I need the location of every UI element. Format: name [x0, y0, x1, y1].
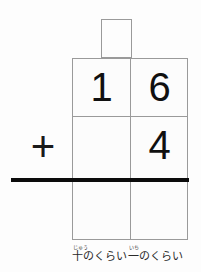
- caption-ones-place: いち 一のくらい: [128, 244, 190, 263]
- carry-box[interactable]: [101, 19, 132, 58]
- cell-addend2-tens[interactable]: [73, 117, 130, 174]
- plus-operator: +: [22, 124, 64, 170]
- cell-answer-ones[interactable]: [131, 181, 188, 238]
- caption-ones-label: 一のくらい: [128, 250, 190, 263]
- cell-answer-tens[interactable]: [73, 181, 130, 238]
- answer-rule-line: [11, 178, 189, 182]
- caption-tens-label: 十のくらい: [72, 250, 134, 263]
- place-value-captions: じゅう 十のくらい いち 一のくらい: [62, 244, 194, 270]
- cell-addend1-tens[interactable]: 1: [73, 59, 130, 116]
- carry-box-value: [102, 20, 131, 57]
- caption-tens-place: じゅう 十のくらい: [72, 244, 134, 263]
- cell-addend2-ones[interactable]: 4: [131, 117, 188, 174]
- cell-addend1-ones[interactable]: 6: [131, 59, 188, 116]
- place-value-grid: 1 6 4: [72, 58, 188, 240]
- worksheet-canvas: 1 6 4 + じゅう 十のくらい いち 一のくらい: [0, 0, 201, 272]
